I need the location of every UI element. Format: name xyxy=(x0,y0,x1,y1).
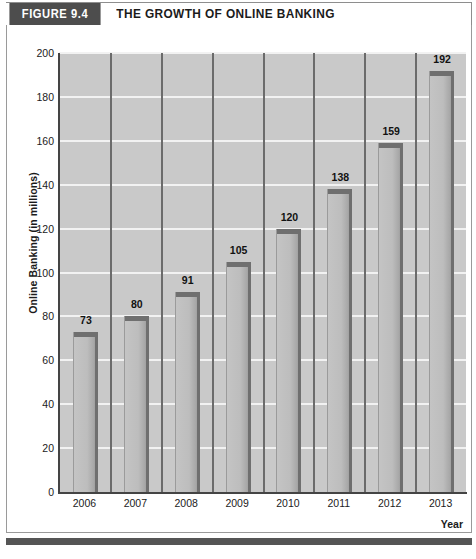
y-tick-label: 40 xyxy=(20,399,54,410)
figure-number-tag: FIGURE 9.4 xyxy=(9,3,100,25)
y-tick-label: 200 xyxy=(20,48,54,59)
y-tick-label: 60 xyxy=(20,355,54,366)
x-axis-line xyxy=(58,492,467,494)
x-tick-label: 2013 xyxy=(429,498,452,509)
category-separator xyxy=(263,53,265,492)
bar-right-edge xyxy=(248,262,251,492)
bar-right-edge xyxy=(197,292,200,492)
y-tick-label: 20 xyxy=(20,443,54,454)
y-tick-label: 120 xyxy=(20,223,54,234)
x-tick-label: 2010 xyxy=(276,498,299,509)
bar-value-label: 105 xyxy=(230,245,248,256)
y-tick-label: 80 xyxy=(20,311,54,322)
y-tick-label: 100 xyxy=(20,267,54,278)
plot-area: 738091105120138159192 xyxy=(59,53,466,492)
category-separator xyxy=(364,53,366,492)
bar: 192 xyxy=(429,71,454,492)
x-tick-label: 2008 xyxy=(175,498,198,509)
bar: 120 xyxy=(276,229,301,492)
x-tick-label: 2009 xyxy=(225,498,248,509)
bar: 80 xyxy=(124,316,149,492)
figure-header: FIGURE 9.4 THE GROWTH OF ONLINE BANKING xyxy=(6,2,472,25)
bar-right-edge xyxy=(298,229,301,492)
bar: 138 xyxy=(327,189,352,492)
bar-value-label: 73 xyxy=(80,315,92,326)
cut-off-caption xyxy=(8,549,470,559)
figure-container: FIGURE 9.4 THE GROWTH OF ONLINE BANKING … xyxy=(0,0,476,559)
x-tick-label: 2011 xyxy=(328,498,351,509)
chart-frame: Online Banking (in millions) 02040608010… xyxy=(6,25,472,533)
bar-right-edge xyxy=(400,143,403,492)
category-separator xyxy=(415,53,417,492)
y-axis-tick-labels: 020406080100120140160180200 xyxy=(17,53,54,492)
y-tick-label: 140 xyxy=(20,179,54,190)
y-tick-label: 0 xyxy=(20,487,54,498)
category-separator xyxy=(161,53,163,492)
x-axis-title: Year xyxy=(441,518,463,530)
category-separator xyxy=(313,53,315,492)
bar-right-edge xyxy=(146,316,149,492)
x-tick-label: 2007 xyxy=(124,498,147,509)
bar-value-label: 91 xyxy=(182,275,194,286)
category-separator xyxy=(110,53,112,492)
y-axis-line xyxy=(58,53,60,494)
bar-right-edge xyxy=(349,189,352,492)
bar-value-label: 159 xyxy=(382,126,400,137)
y-tick-label: 180 xyxy=(20,92,54,103)
bar: 91 xyxy=(175,292,200,492)
bar-right-edge xyxy=(451,71,454,492)
bar: 159 xyxy=(378,143,403,492)
bar: 73 xyxy=(73,332,98,492)
bar-value-label: 192 xyxy=(433,54,451,65)
bottom-rule xyxy=(6,538,472,545)
bar-value-label: 80 xyxy=(131,299,143,310)
bar-value-label: 138 xyxy=(332,172,350,183)
x-tick-label: 2006 xyxy=(73,498,96,509)
bar: 105 xyxy=(226,262,251,492)
category-separator xyxy=(212,53,214,492)
figure-title: THE GROWTH OF ONLINE BANKING xyxy=(104,3,453,25)
bar-right-edge xyxy=(95,332,98,492)
bar-value-label: 120 xyxy=(281,212,299,223)
y-tick-label: 160 xyxy=(20,136,54,147)
x-tick-label: 2012 xyxy=(378,498,401,509)
